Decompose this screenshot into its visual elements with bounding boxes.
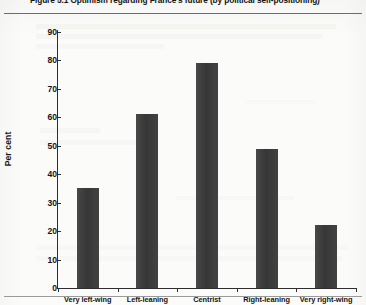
y-tick-label: 10 xyxy=(37,255,57,265)
y-tick-label: 70 xyxy=(37,84,57,94)
bar xyxy=(136,114,158,288)
y-axis-line xyxy=(57,30,58,289)
title-divider xyxy=(4,13,362,14)
scanned-page-background: Figure 5.1 Optimism regarding France's f… xyxy=(0,0,366,305)
y-tick-mark xyxy=(57,203,61,204)
bar-chart: Per cent 0102030405060708090 Very left-w… xyxy=(0,16,366,305)
x-tick-mark xyxy=(177,288,178,292)
bar xyxy=(196,63,218,288)
y-tick-mark xyxy=(57,231,61,232)
x-tick-mark xyxy=(296,288,297,292)
x-tick-mark xyxy=(118,288,119,292)
y-tick-mark xyxy=(57,146,61,147)
x-tick-mark xyxy=(58,288,59,292)
y-tick-label: 50 xyxy=(37,141,57,151)
y-tick-label: 40 xyxy=(37,169,57,179)
y-tick-mark xyxy=(57,117,61,118)
x-tick-mark xyxy=(237,288,238,292)
y-tick-label: 60 xyxy=(37,112,57,122)
bottom-divider xyxy=(4,296,362,297)
y-axis-label: Per cent xyxy=(3,119,13,179)
y-tick-mark xyxy=(57,32,61,33)
y-tick-label: 80 xyxy=(37,55,57,65)
y-tick-mark xyxy=(57,260,61,261)
y-tick-label: 20 xyxy=(37,226,57,236)
y-tick-label: 0 xyxy=(37,283,57,293)
x-axis-line xyxy=(57,288,356,289)
y-tick-mark xyxy=(57,60,61,61)
bar xyxy=(315,225,337,288)
x-tick-mark xyxy=(356,288,357,292)
y-tick-label: 90 xyxy=(37,27,57,37)
y-tick-mark xyxy=(57,174,61,175)
y-tick-label: 30 xyxy=(37,198,57,208)
page-title: Figure 5.1 Optimism regarding France's f… xyxy=(30,0,320,5)
y-tick-mark xyxy=(57,89,61,90)
bar xyxy=(77,188,99,288)
bar xyxy=(256,149,278,288)
